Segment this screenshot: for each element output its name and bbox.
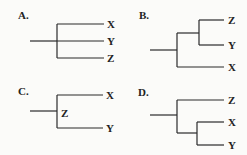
tip-label: X	[107, 19, 115, 30]
tree-d	[150, 100, 224, 145]
tree-a	[30, 24, 104, 58]
tip-label: X	[106, 90, 114, 101]
trees-drawing	[0, 0, 247, 155]
tip-label: Y	[106, 123, 114, 134]
internal-node-label: Z	[61, 108, 68, 119]
tip-label: Y	[228, 140, 236, 151]
tip-label: Z	[228, 95, 235, 106]
panel-label-a: A.	[18, 10, 29, 21]
tip-label: X	[228, 62, 236, 73]
tip-label: Y	[228, 40, 236, 51]
tip-label: Y	[107, 36, 115, 47]
tip-label: Z	[107, 53, 114, 64]
panel-label-b: B.	[139, 10, 149, 21]
tip-label: Z	[228, 15, 235, 26]
panel-label-d: D.	[138, 87, 149, 98]
tip-label: X	[228, 117, 236, 128]
panel-label-c: C.	[18, 86, 29, 97]
tree-b	[150, 20, 224, 67]
